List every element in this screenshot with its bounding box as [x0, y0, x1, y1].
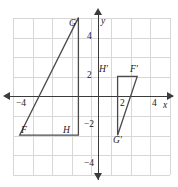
vertex-label-H-prime: H′ — [99, 65, 108, 75]
triangle-F-prime-G-prime-H-prime — [118, 76, 138, 135]
shapes-layer — [0, 0, 178, 187]
vertex-label-G-prime: G′ — [113, 136, 122, 146]
vertex-label-F: F — [21, 126, 27, 136]
vertex-label-H: H — [63, 126, 70, 136]
vertex-label-F-prime: F′ — [130, 65, 138, 75]
triangle-FGH — [20, 18, 79, 136]
vertex-label-G: G — [69, 19, 76, 29]
coordinate-plane-figure: y x −4 2 4 4 2 −2 −4 F G H H′ F′ G′ — [0, 0, 178, 187]
